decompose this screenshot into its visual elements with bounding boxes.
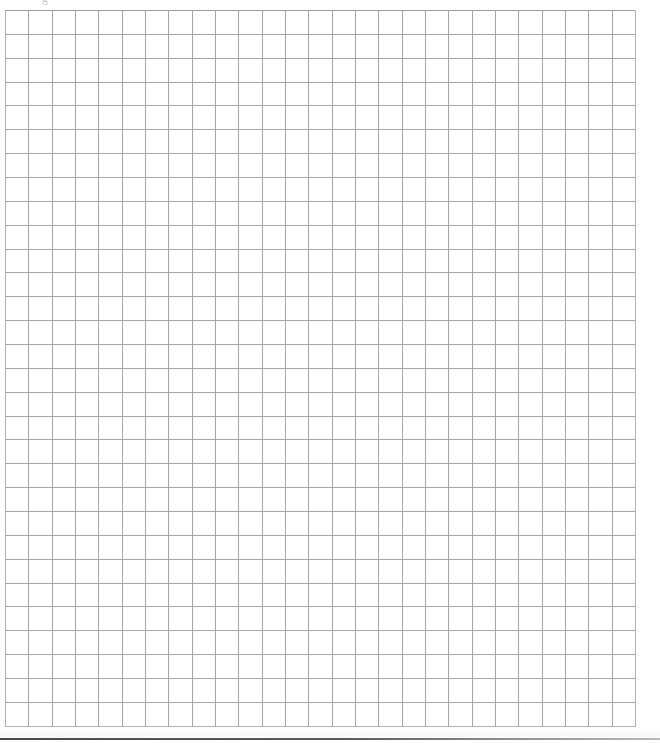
- grid-cell[interactable]: [29, 368, 52, 392]
- grid-cell[interactable]: [589, 679, 612, 703]
- grid-cell[interactable]: [169, 464, 192, 488]
- grid-cell[interactable]: [262, 11, 285, 35]
- grid-cell[interactable]: [192, 631, 215, 655]
- grid-cell[interactable]: [122, 249, 145, 273]
- grid-cell[interactable]: [169, 321, 192, 345]
- grid-cell[interactable]: [192, 297, 215, 321]
- grid-cell[interactable]: [612, 679, 635, 703]
- grid-cell[interactable]: [169, 488, 192, 512]
- grid-cell[interactable]: [425, 679, 448, 703]
- grid-cell[interactable]: [355, 655, 378, 679]
- grid-cell[interactable]: [309, 583, 332, 607]
- grid-cell[interactable]: [542, 225, 565, 249]
- grid-cell[interactable]: [332, 106, 355, 130]
- grid-cell[interactable]: [99, 297, 122, 321]
- grid-cell[interactable]: [519, 154, 542, 178]
- grid-cell[interactable]: [309, 416, 332, 440]
- grid-cell[interactable]: [75, 679, 98, 703]
- grid-cell[interactable]: [379, 130, 402, 154]
- grid-cell[interactable]: [402, 130, 425, 154]
- grid-cell[interactable]: [495, 82, 518, 106]
- grid-cell[interactable]: [285, 368, 308, 392]
- grid-cell[interactable]: [215, 488, 238, 512]
- grid-cell[interactable]: [285, 488, 308, 512]
- grid-cell[interactable]: [6, 321, 29, 345]
- grid-cell[interactable]: [425, 154, 448, 178]
- grid-cell[interactable]: [565, 702, 588, 726]
- grid-cell[interactable]: [565, 201, 588, 225]
- grid-cell[interactable]: [169, 34, 192, 58]
- grid-cell[interactable]: [472, 345, 495, 369]
- grid-cell[interactable]: [99, 321, 122, 345]
- grid-cell[interactable]: [355, 440, 378, 464]
- grid-cell[interactable]: [309, 34, 332, 58]
- grid-cell[interactable]: [215, 512, 238, 536]
- grid-cell[interactable]: [239, 631, 262, 655]
- grid-cell[interactable]: [379, 631, 402, 655]
- grid-cell[interactable]: [262, 535, 285, 559]
- grid-cell[interactable]: [239, 488, 262, 512]
- grid-cell[interactable]: [332, 154, 355, 178]
- grid-cell[interactable]: [355, 702, 378, 726]
- grid-cell[interactable]: [449, 130, 472, 154]
- grid-cell[interactable]: [52, 631, 75, 655]
- grid-cell[interactable]: [379, 273, 402, 297]
- grid-cell[interactable]: [192, 249, 215, 273]
- grid-cell[interactable]: [145, 34, 168, 58]
- grid-cell[interactable]: [75, 392, 98, 416]
- grid-cell[interactable]: [402, 559, 425, 583]
- grid-cell[interactable]: [589, 535, 612, 559]
- grid-cell[interactable]: [332, 34, 355, 58]
- grid-cell[interactable]: [239, 440, 262, 464]
- grid-cell[interactable]: [52, 702, 75, 726]
- grid-cell[interactable]: [145, 631, 168, 655]
- grid-cell[interactable]: [192, 464, 215, 488]
- grid-cell[interactable]: [285, 11, 308, 35]
- grid-cell[interactable]: [262, 655, 285, 679]
- grid-cell[interactable]: [449, 34, 472, 58]
- grid-cell[interactable]: [402, 154, 425, 178]
- grid-cell[interactable]: [355, 82, 378, 106]
- grid-cell[interactable]: [332, 392, 355, 416]
- grid-cell[interactable]: [192, 535, 215, 559]
- grid-cell[interactable]: [285, 535, 308, 559]
- grid-cell[interactable]: [239, 178, 262, 202]
- grid-cell[interactable]: [6, 154, 29, 178]
- grid-cell[interactable]: [6, 201, 29, 225]
- grid-cell[interactable]: [379, 535, 402, 559]
- grid-cell[interactable]: [262, 631, 285, 655]
- grid-cell[interactable]: [52, 106, 75, 130]
- grid-cell[interactable]: [355, 631, 378, 655]
- grid-cell[interactable]: [29, 512, 52, 536]
- grid-cell[interactable]: [332, 225, 355, 249]
- grid-cell[interactable]: [542, 297, 565, 321]
- grid-cell[interactable]: [262, 249, 285, 273]
- grid-cell[interactable]: [99, 11, 122, 35]
- grid-cell[interactable]: [495, 201, 518, 225]
- grid-cell[interactable]: [122, 321, 145, 345]
- grid-cell[interactable]: [145, 201, 168, 225]
- grid-cell[interactable]: [355, 464, 378, 488]
- grid-cell[interactable]: [262, 392, 285, 416]
- grid-cell[interactable]: [145, 297, 168, 321]
- grid-cell[interactable]: [309, 631, 332, 655]
- grid-cell[interactable]: [612, 154, 635, 178]
- grid-cell[interactable]: [589, 201, 612, 225]
- grid-cell[interactable]: [99, 154, 122, 178]
- grid-cell[interactable]: [6, 488, 29, 512]
- grid-cell[interactable]: [75, 512, 98, 536]
- grid-cell[interactable]: [542, 464, 565, 488]
- grid-cell[interactable]: [75, 225, 98, 249]
- grid-cell[interactable]: [379, 297, 402, 321]
- grid-cell[interactable]: [6, 512, 29, 536]
- grid-cell[interactable]: [472, 368, 495, 392]
- grid-cell[interactable]: [309, 535, 332, 559]
- grid-cell[interactable]: [612, 178, 635, 202]
- grid-cell[interactable]: [52, 273, 75, 297]
- grid-cell[interactable]: [169, 297, 192, 321]
- grid-cell[interactable]: [402, 702, 425, 726]
- grid-cell[interactable]: [239, 58, 262, 82]
- grid-cell[interactable]: [52, 154, 75, 178]
- grid-cell[interactable]: [285, 702, 308, 726]
- grid-cell[interactable]: [449, 345, 472, 369]
